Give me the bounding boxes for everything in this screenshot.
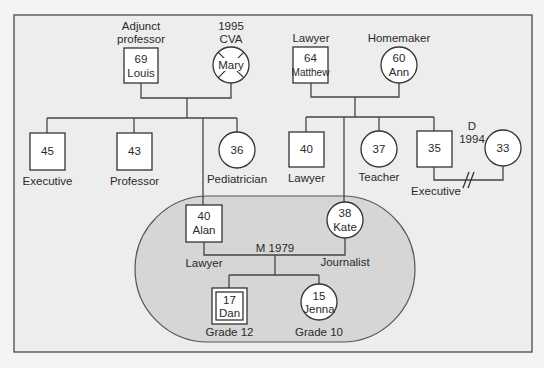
alan-occupation: Lawyer bbox=[185, 257, 222, 269]
paternal-sibling-45-occupation: Executive bbox=[23, 175, 73, 187]
kate-occupation: Journalist bbox=[320, 256, 370, 268]
jenna-name: Jenna bbox=[303, 303, 335, 315]
maternal-sibling-35-age: 35 bbox=[428, 142, 441, 154]
louis-age: 69 bbox=[135, 53, 148, 65]
mary-death-year: 1995 bbox=[218, 20, 244, 32]
louis-name: Louis bbox=[127, 67, 155, 79]
maternal-sibling-35-occupation: Executive bbox=[411, 185, 461, 197]
maternal-sibling-40-age: 40 bbox=[300, 143, 313, 155]
ann-name: Ann bbox=[389, 66, 409, 78]
mary-name: Mary bbox=[218, 59, 244, 71]
paternal-sibling-43-age: 43 bbox=[128, 145, 141, 157]
maternal-sibling-37-occupation: Teacher bbox=[359, 171, 400, 183]
paternal-sibling-43-occupation: Professor bbox=[110, 175, 159, 187]
ann-age: 60 bbox=[393, 52, 406, 64]
alan-name: Alan bbox=[192, 224, 215, 236]
matthew-age: 64 bbox=[304, 52, 317, 64]
jenna-age: 15 bbox=[313, 290, 326, 302]
paternal-sibling-36-age: 36 bbox=[231, 144, 244, 156]
divorce-year: 1994 bbox=[459, 133, 485, 145]
jenna-grade: Grade 10 bbox=[295, 326, 343, 338]
kate-name: Kate bbox=[333, 221, 357, 233]
kate-age: 38 bbox=[339, 207, 352, 219]
marriage-year: M 1979 bbox=[256, 242, 294, 254]
dan-age: 17 bbox=[223, 294, 236, 306]
ex-spouse-33-age: 33 bbox=[497, 142, 510, 154]
alan-age: 40 bbox=[198, 210, 211, 222]
maternal-sibling-40-occupation: Lawyer bbox=[288, 172, 325, 184]
matthew-occupation: Lawyer bbox=[292, 32, 329, 44]
mary-cause-of-death: CVA bbox=[220, 33, 243, 45]
maternal-sibling-37-age: 37 bbox=[373, 143, 386, 155]
genogram-diagram: Adjunct professor 69 Louis 1995 CVA Mary… bbox=[0, 0, 544, 368]
paternal-sibling-36-occupation: Pediatrician bbox=[207, 173, 267, 185]
louis-occupation-line1: Adjunct bbox=[122, 20, 161, 32]
matthew-name: Matthew bbox=[292, 67, 331, 78]
ann-occupation: Homemaker bbox=[368, 32, 431, 44]
dan-grade: Grade 12 bbox=[206, 326, 254, 338]
dan-name: Dan bbox=[219, 307, 240, 319]
divorce-mark-label: D bbox=[468, 120, 476, 132]
paternal-sibling-45-age: 45 bbox=[41, 145, 54, 157]
louis-occupation-line2: professor bbox=[117, 33, 165, 45]
